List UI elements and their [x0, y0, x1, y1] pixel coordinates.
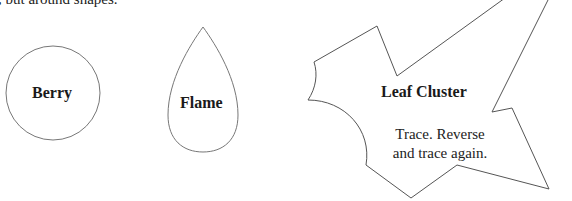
instruction-line-2: and trace again. [386, 144, 494, 163]
leaf-cluster-label: Leaf Cluster [381, 83, 467, 101]
flame-label: Flame [180, 94, 223, 112]
flame-outline [168, 27, 238, 152]
instruction-line-1: Trace. Reverse [386, 125, 494, 144]
pattern-shapes [0, 0, 572, 201]
leaf-cluster-instructions: Trace. Reverse and trace again. [386, 125, 494, 163]
berry-label: Berry [32, 84, 72, 102]
